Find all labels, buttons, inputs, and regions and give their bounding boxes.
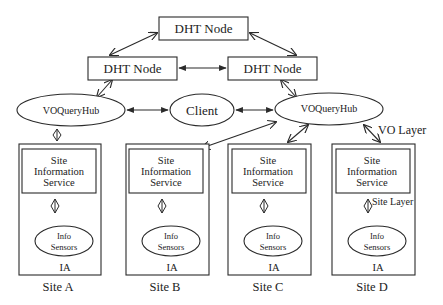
service-label-line3: Service bbox=[252, 177, 284, 188]
client-label: Client bbox=[186, 103, 218, 118]
site-name: Site C bbox=[253, 280, 284, 294]
service-label-line1: Site bbox=[51, 155, 68, 166]
sensors-label-line1: Info bbox=[266, 231, 280, 241]
agent-label: IA bbox=[268, 262, 279, 273]
sensors-label-line2: Sensors bbox=[158, 242, 184, 252]
service-label-line1: Site bbox=[260, 155, 277, 166]
sensors-label-line2: Sensors bbox=[51, 242, 77, 252]
architecture-diagram: DHT Node DHT Node DHT Node VOQueryHub Cl… bbox=[0, 0, 443, 305]
agent-label: IA bbox=[372, 262, 383, 273]
arrow-hub-right-to-site-c bbox=[288, 125, 308, 142]
site-layer-label: Site Layer bbox=[372, 196, 414, 207]
service-label-line2: Information bbox=[243, 166, 294, 177]
arrow-dht-left-to-hub-left bbox=[97, 80, 112, 97]
vo-query-hub-right: VOQueryHub bbox=[275, 93, 383, 125]
sensors-label-line1: Info bbox=[164, 231, 178, 241]
dht-node-left: DHT Node bbox=[88, 57, 177, 80]
dht-node-top: DHT Node bbox=[159, 17, 248, 40]
service-label-line3: Service bbox=[150, 177, 182, 188]
sensors-label-line2: Sensors bbox=[364, 242, 390, 252]
sensors-label-line2: Sensors bbox=[260, 242, 286, 252]
service-label-line1: Site bbox=[158, 155, 175, 166]
sensors-label-line1: Info bbox=[370, 231, 384, 241]
sensors-label-line1: Info bbox=[57, 231, 71, 241]
site-name: Site B bbox=[150, 280, 181, 294]
dht-node-label: DHT Node bbox=[244, 61, 302, 76]
arrow-dht-top-to-dht-left bbox=[110, 33, 157, 55]
dht-node-label: DHT Node bbox=[175, 21, 233, 36]
site-c: Site Information Service Info Sensors IA… bbox=[228, 144, 311, 294]
dht-node-right: DHT Node bbox=[228, 57, 317, 80]
hub-to-site-a-arrow bbox=[53, 129, 61, 141]
arrow-dht-right-to-hub-right bbox=[281, 80, 296, 97]
diagram-canvas: DHT Node DHT Node DHT Node VOQueryHub Cl… bbox=[0, 0, 443, 305]
dht-node-label: DHT Node bbox=[104, 61, 162, 76]
site-name: Site A bbox=[43, 280, 74, 294]
site-a: Site Information Service Info Sensors IA… bbox=[19, 144, 101, 294]
service-label-line2: Information bbox=[347, 166, 398, 177]
service-label-line3: Service bbox=[43, 177, 75, 188]
hub-label: VOQueryHub bbox=[43, 105, 100, 116]
agent-label: IA bbox=[59, 262, 70, 273]
agent-label: IA bbox=[166, 262, 177, 273]
service-label-line3: Service bbox=[356, 177, 388, 188]
site-name: Site D bbox=[356, 280, 388, 294]
site-d: Site Information Service Site Layer Info… bbox=[332, 144, 415, 294]
service-label-line2: Information bbox=[34, 166, 85, 177]
client-node: Client bbox=[170, 94, 234, 126]
arrow-dht-top-to-dht-right bbox=[250, 33, 296, 55]
vo-query-hub-left: VOQueryHub bbox=[17, 94, 125, 126]
vo-layer-label: VO Layer bbox=[378, 123, 426, 137]
service-label-line2: Information bbox=[141, 166, 192, 177]
connection-arrows bbox=[97, 33, 380, 148]
hub-label: VOQueryHub bbox=[301, 103, 358, 114]
service-label-line1: Site bbox=[364, 155, 381, 166]
site-b: Site Information Service Info Sensors IA… bbox=[126, 144, 209, 294]
